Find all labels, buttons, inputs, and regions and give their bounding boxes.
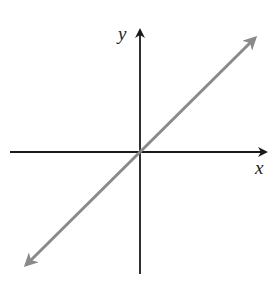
line-through-origin [140,38,255,152]
coordinate-plane: y x [0,0,272,289]
y-axis-label: y [116,23,127,44]
line-through-origin-lower [26,152,140,265]
x-axis-label: x [254,157,264,178]
